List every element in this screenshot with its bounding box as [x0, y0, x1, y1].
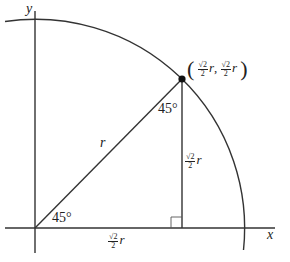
y-axis-label: y [26, 1, 32, 17]
point-angle-label: 45° [158, 101, 178, 117]
vertical-leg-fraction: √2 2 [185, 153, 195, 170]
fraction-denominator: 2 [188, 162, 192, 170]
vertical-leg-label: √2 2 r [185, 152, 201, 170]
y-coordinate-fraction: √2 2 [221, 61, 231, 78]
point-coordinates-label: ( √2 2 r, √2 2 r ) [187, 58, 248, 80]
point-marker [178, 75, 185, 82]
origin-angle-label: 45° [52, 210, 72, 226]
leg-variable: r [119, 232, 124, 247]
circle-arc [5, 19, 245, 250]
y-coordinate-variable: r [232, 60, 237, 75]
coordinate-separator: , [214, 60, 217, 75]
right-angle-marker [171, 217, 182, 228]
fraction-denominator: 2 [111, 242, 115, 250]
horizontal-leg-label: √2 2 r [108, 232, 124, 250]
diagram-canvas [0, 0, 290, 262]
leg-variable: r [196, 152, 201, 167]
x-coordinate-fraction: √2 2 [198, 61, 208, 78]
fraction-denominator: 2 [201, 70, 205, 78]
hypotenuse-label: r [100, 135, 105, 151]
horizontal-leg-fraction: √2 2 [108, 233, 118, 250]
fraction-denominator: 2 [224, 70, 228, 78]
open-paren: ( [187, 56, 194, 81]
x-axis-label: x [267, 227, 273, 243]
close-paren: ) [240, 56, 247, 81]
